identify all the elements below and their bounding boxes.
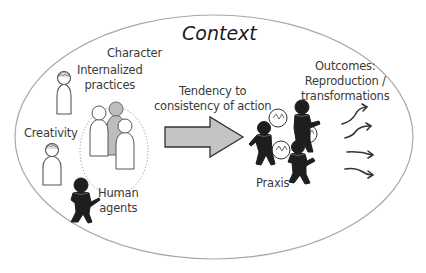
human-line1: Human	[98, 187, 138, 200]
tendency-arrow	[165, 117, 243, 157]
tendency-label: Tendency to consistency of action	[154, 85, 271, 113]
internalized-practices-label: Internalized practices	[77, 64, 143, 92]
praxis-label: Praxis	[256, 177, 289, 190]
creativity-figure	[43, 144, 61, 186]
outcome-arrows	[342, 104, 373, 178]
character-group	[80, 102, 148, 195]
internalized-practices-figure	[57, 72, 71, 115]
tendency-line2: consistency of action	[154, 100, 271, 113]
human-agents-label: Human agents	[98, 187, 138, 215]
human-agent-figure	[71, 178, 100, 223]
context-title: Context	[182, 22, 257, 44]
internalized-line1: Internalized	[77, 64, 143, 77]
internalized-line2: practices	[77, 79, 143, 92]
diagram-canvas: Context Character Internalized practices…	[0, 0, 426, 273]
outcomes-line2: Reproduction /	[301, 75, 389, 88]
tendency-line1: Tendency to	[154, 85, 271, 98]
outcomes-line3: transformations	[301, 90, 389, 103]
outcomes-line1: Outcomes:	[301, 60, 389, 73]
outcomes-label: Outcomes: Reproduction / transformations	[301, 60, 389, 103]
human-line2: agents	[98, 202, 138, 215]
creativity-label: Creativity	[24, 127, 78, 140]
character-label: Character	[107, 47, 162, 60]
